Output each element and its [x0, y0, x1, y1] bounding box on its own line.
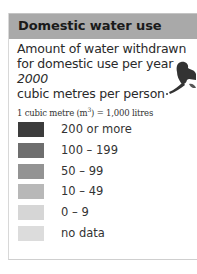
legend-title: Domestic water use [18, 18, 162, 33]
note-suffix: ) = 1,000 litres [91, 108, 153, 118]
legend-swatch [18, 184, 44, 199]
legend-label: no data [61, 226, 105, 241]
legend-swatch [18, 205, 44, 220]
legend-label: 200 or more [61, 122, 132, 137]
legend-label: 0 – 9 [61, 205, 89, 220]
legend-label: 10 – 49 [61, 184, 103, 199]
note-prefix: 1 cubic metre (m [17, 108, 87, 118]
legend-header: Domestic water use [9, 13, 197, 39]
description-line-1: Amount of water withdrawn [17, 41, 186, 56]
legend-swatch [18, 122, 44, 137]
landmass-fragment-icon [165, 58, 197, 96]
legend-label: 100 – 199 [61, 143, 118, 158]
description-year: 2000 [17, 71, 186, 86]
legend-swatch [18, 226, 44, 241]
legend-description: Amount of water withdrawn for domestic u… [17, 41, 186, 101]
legend-panel: Domestic water use Amount of water withd… [8, 13, 197, 260]
legend-label: 50 – 99 [61, 164, 103, 179]
legend-swatch [18, 143, 44, 158]
unit-conversion-note: 1 cubic metre (m3) = 1,000 litres [17, 106, 153, 118]
description-line-2: for domestic use per year [17, 56, 186, 71]
legend-swatch [18, 164, 44, 179]
description-unit: cubic metres per person [17, 86, 186, 101]
